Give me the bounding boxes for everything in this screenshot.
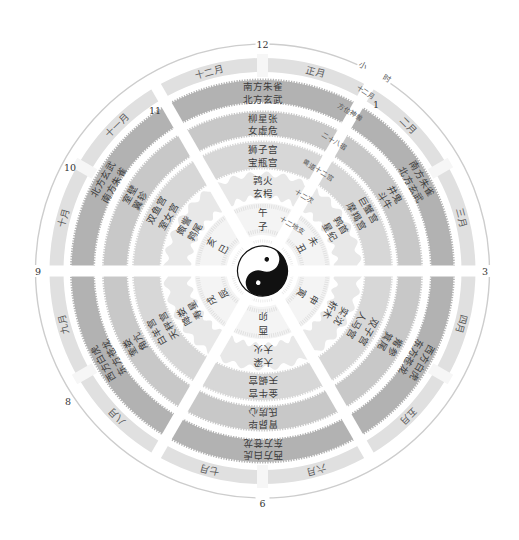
celestial-dial: 南方朱雀北方玄武柳星张女虚危狮子宫宝瓶宫鹑火玄枵午子南方朱雀北方玄武井鬼斗牛巨蟹…	[0, 0, 519, 540]
clock-number: 6	[259, 498, 265, 509]
taiji-symbol	[230, 239, 294, 303]
branches-label: 午	[258, 207, 268, 218]
mansions-label: 女虚危	[248, 125, 278, 136]
month-label: 七月	[198, 462, 220, 478]
mansions-label: 胃昴毕	[248, 419, 278, 430]
clock-number: 8	[65, 396, 71, 407]
clock-number: 11	[149, 105, 161, 116]
celestial-dial-diagram: 南方朱雀北方玄武柳星张女虚危狮子宫宝瓶宫鹑火玄枵午子南方朱雀北方玄武井鬼斗牛巨蟹…	[0, 0, 519, 540]
clock-number: 9	[35, 266, 41, 277]
month-label: 三月	[454, 207, 470, 229]
zodiac-label: 金牛宫	[248, 388, 278, 399]
zodiac-label: 宝瓶宫	[248, 157, 278, 168]
zodiac-label: 天蝎宫	[248, 375, 278, 386]
branches-label: 酉	[258, 325, 268, 336]
mansions-label: 氐房心	[248, 407, 278, 418]
clock-number: 10	[64, 162, 76, 173]
month-label: 四月	[454, 313, 470, 335]
branches-label: 子	[258, 221, 268, 232]
month-label: 正月	[305, 64, 327, 80]
month-label: 十月	[56, 207, 72, 229]
four-symbols-label: 南方朱雀	[243, 81, 283, 92]
clock-number: 3	[482, 266, 488, 277]
four-symbols-label: 北方玄武	[243, 94, 283, 105]
clock-number: 12	[256, 39, 268, 50]
branches-label: 卯	[258, 311, 268, 322]
mansions-label: 柳星张	[248, 113, 278, 124]
stations-label: 大火	[253, 344, 273, 355]
month-label: 六月	[305, 462, 327, 478]
stations-label: 玄枵	[253, 188, 273, 199]
yin-yang-icon	[230, 239, 294, 303]
four-symbols-label: 东方苍龙	[243, 438, 283, 449]
stations-label: 大梁	[253, 357, 273, 368]
month-label: 九月	[56, 313, 72, 335]
zodiac-label: 狮子宫	[248, 144, 278, 155]
clock-number: 1	[373, 99, 379, 110]
four-symbols-label: 西方白虎	[243, 450, 283, 461]
stations-label: 鹑火	[253, 175, 273, 186]
